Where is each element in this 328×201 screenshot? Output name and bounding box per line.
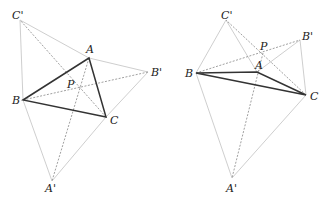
label-b: B bbox=[184, 67, 193, 80]
triangle-abc bbox=[196, 72, 306, 95]
label-a-prime: A' bbox=[225, 182, 237, 195]
label-b-prime: B' bbox=[301, 30, 313, 43]
label-p: P bbox=[66, 78, 75, 91]
label-c-prime: C' bbox=[12, 9, 23, 22]
right-figure: A B C A' B' C' P bbox=[184, 9, 319, 195]
label-c-prime: C' bbox=[221, 9, 232, 22]
equilateral-triangle-a-prime bbox=[23, 100, 106, 181]
label-c: C bbox=[310, 90, 319, 103]
label-c: C bbox=[110, 114, 119, 127]
cevian-b-b-prime bbox=[23, 72, 148, 100]
triangle-abc bbox=[23, 58, 106, 117]
fermat-point-diagram: A B C A' B' C' P A B C A' B' C' P bbox=[0, 0, 328, 201]
label-p: P bbox=[259, 40, 268, 53]
label-a: A bbox=[254, 59, 263, 72]
label-b: B bbox=[11, 94, 20, 107]
label-a-prime: A' bbox=[44, 182, 56, 195]
label-b-prime: B' bbox=[150, 66, 162, 79]
left-figure: A B C A' B' C' P bbox=[11, 9, 162, 195]
label-a: A bbox=[85, 43, 94, 56]
equilateral-triangle-a-prime bbox=[196, 73, 306, 178]
cevian-c-c-prime bbox=[226, 20, 306, 95]
equilateral-triangle-c-prime bbox=[196, 20, 257, 73]
